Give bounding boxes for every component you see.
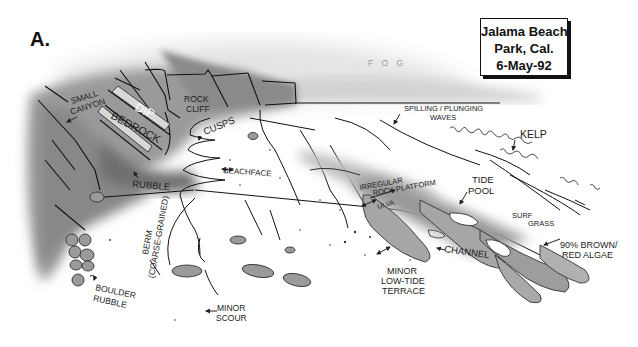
tide-pool-label: TIDE POOL <box>468 174 494 196</box>
minor-scour-label: MINOR SCOUR <box>216 303 247 323</box>
waves-label: SPILLING / PLUNGING WAVES <box>404 104 483 122</box>
algae-label: 90% BROWN/ RED ALGAE <box>560 240 618 260</box>
svg-text:WAVES: WAVES <box>430 113 456 122</box>
svg-text:ROCK: ROCK <box>184 94 209 104</box>
svg-text:GRASS: GRASS <box>528 219 554 228</box>
svg-text:MINOR: MINOR <box>217 303 245 313</box>
low-tide-terrace-label: MINOR LOW-TIDE TERRACE <box>381 266 425 296</box>
svg-text:CLIFF: CLIFF <box>186 104 210 114</box>
location-line-1: Jalama Beach <box>481 23 567 40</box>
svg-text:SPILLING / PLUNGING: SPILLING / PLUNGING <box>404 104 483 113</box>
svg-text:POOL: POOL <box>468 185 494 196</box>
beach-field-sketch: A. F O G SMALL CANYON DIP BEDROCK ROCK C… <box>0 0 638 347</box>
rock-cliff-label: ROCK CLIFF <box>184 94 210 114</box>
svg-text:MINOR: MINOR <box>387 266 417 276</box>
berm-label: BERM (COARSE-GRAINED) <box>136 193 170 278</box>
fog-label: F O G <box>368 58 406 68</box>
location-date-box: Jalama Beach Park, Cal. 6-May-92 <box>480 18 568 76</box>
kelp-label: KELP <box>520 128 547 140</box>
svg-text:LOW-TIDE: LOW-TIDE <box>381 276 425 286</box>
svg-text:90% BROWN/: 90% BROWN/ <box>560 240 618 250</box>
svg-text:RED ALGAE: RED ALGAE <box>562 250 613 260</box>
date-line: 6-May-92 <box>481 57 567 74</box>
svg-text:SCOUR: SCOUR <box>216 313 247 323</box>
boulder-rubble-label: BOULDER RUBBLE <box>92 282 137 311</box>
surf-grass-label: SURF GRASS <box>512 211 554 228</box>
svg-text:TIDE: TIDE <box>472 174 494 185</box>
location-line-2: Park, Cal. <box>481 40 567 57</box>
beachface-label: BEACHFACE <box>223 166 272 178</box>
svg-text:TERRACE: TERRACE <box>382 286 425 296</box>
panel-label: A. <box>30 28 50 50</box>
